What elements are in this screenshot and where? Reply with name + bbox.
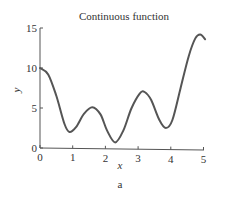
- x-tick-label: 4: [168, 153, 174, 165]
- figure-caption: a: [118, 178, 123, 190]
- y-tick-label: 10: [26, 62, 38, 74]
- x-tick-label: 2: [103, 152, 109, 164]
- data-line: [40, 34, 205, 142]
- x-axis-label: x: [117, 159, 123, 171]
- y-axis-label: y: [10, 87, 22, 93]
- x-tick-label: 5: [201, 153, 207, 165]
- y-tick-label: 15: [26, 22, 38, 34]
- chart-svg: Continuous function 051015 012345 x y a: [0, 0, 228, 200]
- y-axis: 051015: [26, 22, 43, 154]
- x-tick-label: 1: [70, 151, 76, 163]
- chart-figure: Continuous function 051015 012345 x y a: [0, 0, 228, 200]
- y-tick-label: 5: [32, 102, 38, 114]
- x-tick-label: 0: [37, 151, 43, 163]
- chart-title: Continuous function: [79, 10, 170, 22]
- x-tick-label: 3: [135, 152, 141, 164]
